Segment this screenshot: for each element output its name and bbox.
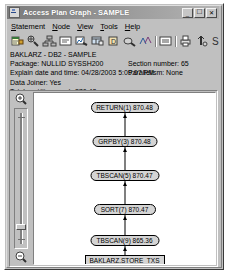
graph-node-label: TBSCAN(5) 870.47	[97, 172, 153, 179]
zoom-tick-top	[18, 117, 25, 118]
window-title: Access Plan Graph - SAMPLE	[23, 8, 182, 17]
svg-text:D: D	[111, 38, 116, 45]
close-icon: ✕	[207, 9, 216, 17]
menu-item-node[interactable]: Node	[52, 22, 70, 31]
menu-item-tools[interactable]: Tools	[100, 22, 118, 31]
info-header-text: BAKLARZ - DB2 - SAMPLE	[10, 50, 128, 59]
access-plan-canvas[interactable]: RETURN(1) 870.48GRPBY(3) 870.48TBSCAN(5)…	[33, 92, 216, 265]
menu-label-view: iew	[82, 22, 93, 31]
graph-node[interactable]: TBSCAN(9) 865.36	[90, 235, 159, 246]
info-row-data-joiner: Data Joiner: Yes	[10, 78, 219, 87]
graph-node-label: TBSCAN(9) 865.36	[97, 237, 153, 244]
magnifier-minus-icon[interactable]	[13, 250, 29, 265]
graph-node-label: RETURN(1) 870.48	[96, 104, 153, 111]
show-statement-icon[interactable]	[10, 34, 25, 48]
menu-item-help[interactable]: Help	[125, 22, 140, 31]
graph-edge-arrow	[123, 247, 127, 251]
svg-text:S: S	[212, 36, 219, 47]
statistics-icon[interactable]: S	[210, 34, 225, 48]
info-package-label: Package: NULLID SYSSH200	[10, 59, 128, 68]
show-index-icon[interactable]: D	[106, 34, 121, 48]
menu-label-statement: tatement	[16, 22, 45, 31]
info-row-header: BAKLARZ - DB2 - SAMPLE	[10, 50, 219, 59]
graph-edge-arrow	[123, 114, 127, 118]
graph-edge-arrow	[123, 182, 127, 186]
menu-label-help: elp	[130, 22, 140, 31]
show-optimized-statement-icon[interactable]	[26, 34, 41, 48]
info-data-joiner-label: Data Joiner: Yes	[10, 78, 128, 87]
graph-node[interactable]: RETURN(1) 870.48	[91, 102, 159, 113]
graph-node[interactable]: TBSCAN(5) 870.47	[90, 170, 159, 181]
info-parallelism-label: Parallelism: None	[128, 68, 183, 77]
show-node-details-icon[interactable]	[58, 34, 73, 48]
menu-label-node: ode	[58, 22, 71, 31]
maximize-icon: □	[195, 8, 204, 16]
menu-item-statement[interactable]: Statement	[11, 22, 45, 31]
screenshot-root: Access Plan Graph - SAMPLE _ □ ✕ Stateme…	[0, 0, 231, 277]
graph-edge-arrow	[123, 216, 127, 220]
info-row-explain-datetime: Explain date and time: 04/28/2003 5:09:0…	[10, 68, 219, 77]
menu-label-tools: ools	[104, 22, 118, 31]
show-statistics-icon[interactable]	[74, 34, 89, 48]
application-window: Access Plan Graph - SAMPLE _ □ ✕ Stateme…	[4, 3, 224, 270]
menu-item-view[interactable]: View	[77, 22, 93, 31]
print-icon[interactable]	[178, 34, 193, 48]
minimize-button[interactable]: _	[182, 8, 193, 18]
zoom-tick-bottom	[18, 239, 25, 240]
title-bar: Access Plan Graph - SAMPLE _ □ ✕	[7, 6, 219, 19]
graph-node-label: BAKLARZ.STORE_TXS	[90, 257, 160, 264]
info-section-number-label: Section number: 65	[128, 59, 189, 68]
show-table-icon[interactable]	[90, 34, 105, 48]
magnifier-plus-icon[interactable]	[13, 92, 29, 107]
zoom-slider-control	[11, 92, 31, 265]
zoom-slider-track[interactable]	[14, 108, 28, 249]
close-button[interactable]: ✕	[206, 8, 217, 18]
graph-legend-icon[interactable]	[138, 34, 153, 48]
maximize-button[interactable]: □	[194, 8, 205, 18]
graph-node[interactable]: BAKLARZ.STORE_TXS	[85, 255, 165, 265]
window-controls: _ □ ✕	[182, 8, 218, 18]
graph-node[interactable]: GRPBY(3) 870.48	[92, 136, 157, 147]
graph-edge-arrow	[123, 148, 127, 152]
graph-node-label: GRPBY(3) 870.48	[98, 138, 150, 145]
graph-node-label: SORT(7) 870.47	[101, 206, 149, 213]
toolbar: D	[8, 33, 219, 49]
app-icon	[9, 7, 20, 18]
optimization-icon[interactable]	[194, 34, 209, 48]
info-explain-datetime-label: Explain date and time: 04/28/2003 5:09:0…	[10, 68, 128, 77]
show-access-plan-icon[interactable]	[42, 34, 57, 48]
show-explain-text-icon[interactable]	[158, 34, 173, 48]
explain-info-panel: BAKLARZ - DB2 - SAMPLE Package: NULLID S…	[8, 49, 219, 89]
graph-node[interactable]: SORT(7) 870.47	[94, 204, 156, 215]
show-operator-details-icon[interactable]	[122, 34, 137, 48]
minimize-icon: _	[183, 10, 192, 18]
zoom-slider-thumb[interactable]	[16, 224, 26, 230]
info-row-package: Package: NULLID SYSSH200 Section number:…	[10, 59, 219, 68]
menu-bar: Statement Node View Tools Help	[8, 20, 218, 32]
